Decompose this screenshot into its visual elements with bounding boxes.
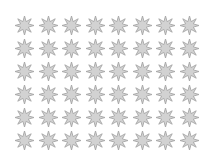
star-icon bbox=[177, 83, 201, 106]
star-shape bbox=[109, 85, 128, 104]
star-shape bbox=[180, 39, 199, 58]
star-shape bbox=[39, 85, 58, 104]
star-icon bbox=[177, 60, 201, 83]
star-icon bbox=[83, 129, 107, 152]
star-icon bbox=[154, 14, 178, 37]
star-icon bbox=[130, 106, 154, 129]
star-shape bbox=[62, 131, 81, 150]
star-icon bbox=[83, 106, 107, 129]
eight-pointed-star-icon bbox=[62, 108, 81, 127]
star-icon bbox=[107, 83, 131, 106]
eight-pointed-star-icon bbox=[133, 39, 152, 58]
star-shape bbox=[86, 16, 105, 35]
eight-pointed-star-icon bbox=[109, 85, 128, 104]
star-shape bbox=[39, 39, 58, 58]
star-shape bbox=[156, 85, 175, 104]
eight-pointed-star-icon bbox=[133, 131, 152, 150]
star-icon bbox=[177, 14, 201, 37]
eight-pointed-star-icon bbox=[180, 108, 199, 127]
star-shape bbox=[62, 108, 81, 127]
star-icon bbox=[60, 106, 84, 129]
eight-pointed-star-icon bbox=[156, 108, 175, 127]
eight-pointed-star-icon bbox=[15, 131, 34, 150]
star-shape bbox=[15, 108, 34, 127]
star-icon bbox=[177, 37, 201, 60]
star-icon bbox=[13, 129, 37, 152]
star-shape bbox=[180, 131, 199, 150]
eight-pointed-star-icon bbox=[39, 108, 58, 127]
star-shape bbox=[15, 39, 34, 58]
star-shape bbox=[156, 16, 175, 35]
star-icon bbox=[154, 37, 178, 60]
star-icon bbox=[13, 60, 37, 83]
star-shape bbox=[133, 108, 152, 127]
star-shape bbox=[133, 39, 152, 58]
star-shape bbox=[133, 85, 152, 104]
star-shape bbox=[180, 108, 199, 127]
star-icon bbox=[83, 14, 107, 37]
star-icon bbox=[154, 83, 178, 106]
star-shape bbox=[62, 16, 81, 35]
eight-pointed-star-icon bbox=[39, 62, 58, 81]
star-icon bbox=[13, 83, 37, 106]
eight-pointed-star-icon bbox=[62, 39, 81, 58]
star-shape bbox=[15, 131, 34, 150]
star-icon bbox=[130, 60, 154, 83]
star-icon bbox=[60, 37, 84, 60]
star-icon bbox=[36, 60, 60, 83]
eight-pointed-star-icon bbox=[62, 85, 81, 104]
eight-pointed-star-icon bbox=[86, 85, 105, 104]
eight-pointed-star-icon bbox=[109, 39, 128, 58]
eight-pointed-star-icon bbox=[86, 16, 105, 35]
eight-pointed-star-icon bbox=[156, 131, 175, 150]
star-shape bbox=[62, 39, 81, 58]
star-icon bbox=[130, 83, 154, 106]
eight-pointed-star-icon bbox=[133, 16, 152, 35]
star-shape bbox=[156, 39, 175, 58]
eight-pointed-star-icon bbox=[62, 16, 81, 35]
eight-pointed-star-icon bbox=[39, 16, 58, 35]
star-shape bbox=[180, 16, 199, 35]
star-shape bbox=[15, 16, 34, 35]
eight-pointed-star-icon bbox=[109, 62, 128, 81]
eight-pointed-star-icon bbox=[109, 131, 128, 150]
star-icon bbox=[60, 60, 84, 83]
star-icon bbox=[107, 14, 131, 37]
eight-pointed-star-icon bbox=[133, 62, 152, 81]
star-shape bbox=[86, 131, 105, 150]
eight-pointed-star-icon bbox=[180, 62, 199, 81]
star-shape bbox=[180, 62, 199, 81]
star-icon bbox=[36, 14, 60, 37]
star-shape bbox=[156, 62, 175, 81]
eight-pointed-star-icon bbox=[39, 39, 58, 58]
star-grid bbox=[0, 0, 207, 162]
star-icon bbox=[130, 37, 154, 60]
star-icon bbox=[36, 129, 60, 152]
eight-pointed-star-icon bbox=[15, 85, 34, 104]
star-shape bbox=[39, 16, 58, 35]
eight-pointed-star-icon bbox=[62, 62, 81, 81]
star-shape bbox=[109, 16, 128, 35]
star-shape bbox=[39, 108, 58, 127]
star-shape bbox=[156, 131, 175, 150]
eight-pointed-star-icon bbox=[133, 85, 152, 104]
eight-pointed-star-icon bbox=[15, 62, 34, 81]
star-icon bbox=[130, 129, 154, 152]
star-icon bbox=[177, 106, 201, 129]
star-icon bbox=[36, 83, 60, 106]
eight-pointed-star-icon bbox=[86, 131, 105, 150]
star-icon bbox=[60, 14, 84, 37]
eight-pointed-star-icon bbox=[39, 85, 58, 104]
star-shape bbox=[39, 131, 58, 150]
star-shape bbox=[109, 131, 128, 150]
star-shape bbox=[109, 108, 128, 127]
eight-pointed-star-icon bbox=[156, 39, 175, 58]
star-icon bbox=[83, 60, 107, 83]
eight-pointed-star-icon bbox=[156, 16, 175, 35]
eight-pointed-star-icon bbox=[156, 85, 175, 104]
star-shape bbox=[62, 85, 81, 104]
star-icon bbox=[154, 129, 178, 152]
eight-pointed-star-icon bbox=[62, 131, 81, 150]
eight-pointed-star-icon bbox=[180, 85, 199, 104]
star-shape bbox=[109, 39, 128, 58]
